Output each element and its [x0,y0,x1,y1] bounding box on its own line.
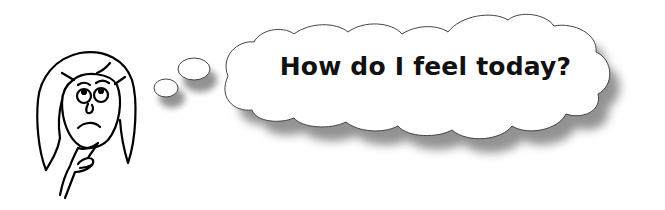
girl-thinking-icon [37,52,135,198]
thought-dot-medium [178,58,210,80]
thought-bubble-text: How do I feel today? [258,52,593,81]
illustration-canvas [0,0,665,210]
thought-dot-small [154,79,178,97]
